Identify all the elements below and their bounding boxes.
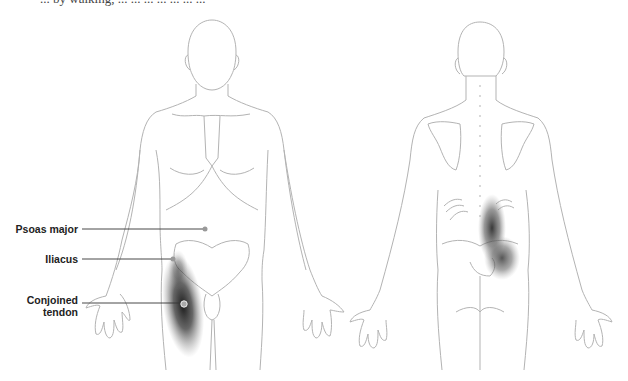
label-iliacus: Iliacus — [0, 253, 78, 265]
iliacus-label-text: Iliacus — [45, 253, 78, 265]
label-conjoined-tendon: Conjoined tendon — [0, 294, 78, 318]
iliacus-marker — [171, 257, 176, 262]
anatomy-figure — [0, 0, 628, 381]
conjoined-marker — [181, 301, 187, 307]
label-psoas-major: Psoas major — [0, 223, 78, 235]
conjoined-label-line2: tendon — [0, 306, 78, 318]
psoas-marker — [203, 227, 208, 232]
conjoined-label-line1: Conjoined — [0, 294, 78, 306]
psoas-label-text: Psoas major — [16, 223, 78, 235]
spine-dots — [479, 85, 481, 217]
front-body-outline — [86, 20, 344, 370]
